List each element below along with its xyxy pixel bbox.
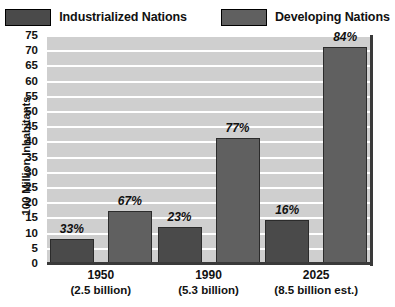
- right-axis-line: [370, 35, 373, 266]
- y-tick-label: 15: [25, 211, 38, 223]
- y-tick-label: 55: [25, 90, 38, 102]
- y-tick-label: 50: [25, 105, 38, 117]
- y-tick-label: 0: [32, 257, 38, 269]
- y-axis-tick-labels: 051015202530354045505560657075: [0, 35, 42, 263]
- bar-value-label: 33%: [60, 222, 84, 236]
- y-tick-label: 45: [25, 120, 38, 132]
- y-tick-label: 70: [25, 44, 38, 56]
- bar-1990-developing: [216, 138, 260, 263]
- x-tick-year: 2025: [274, 268, 358, 283]
- x-tick-year: 1990: [178, 268, 239, 283]
- y-tick-label: 30: [25, 166, 38, 178]
- bar-2025-industrialized: [265, 220, 309, 263]
- x-tick-group-1990: 1990(5.3 billion): [178, 268, 239, 298]
- bar-value-label: 23%: [167, 210, 191, 224]
- bar-value-label: 67%: [118, 194, 142, 208]
- bar-1990-industrialized: [158, 227, 202, 263]
- y-tick-label: 20: [25, 196, 38, 208]
- bar-series-container: 33%67%23%77%16%84%: [47, 35, 370, 263]
- legend-item-industrialized: Industrialized Nations: [5, 9, 187, 26]
- x-tick-population: (2.5 billion): [70, 283, 131, 298]
- y-tick-label: 60: [25, 75, 38, 87]
- bar-chart: Industrialized Nations Developing Nation…: [0, 0, 395, 307]
- y-tick-label: 65: [25, 59, 38, 71]
- x-axis-line: [47, 262, 370, 265]
- legend-label-developing: Developing Nations: [275, 10, 390, 24]
- legend-swatch-industrialized: [5, 9, 51, 26]
- y-tick-label: 40: [25, 135, 38, 147]
- x-tick-year: 1950: [70, 268, 131, 283]
- legend-label-industrialized: Industrialized Nations: [59, 10, 187, 24]
- y-tick-label: 10: [25, 227, 38, 239]
- plot-area: 33%67%23%77%16%84%: [47, 35, 370, 263]
- x-tick-population: (5.3 billion): [178, 283, 239, 298]
- bar-1950-industrialized: [50, 239, 94, 263]
- legend-swatch-developing: [221, 9, 267, 26]
- x-tick-group-2025: 2025(8.5 billion est.): [274, 268, 358, 298]
- y-tick-label: 25: [25, 181, 38, 193]
- chart-legend: Industrialized Nations Developing Nation…: [0, 6, 395, 28]
- y-tick-label: 5: [32, 242, 38, 254]
- x-axis-tick-labels: 1950(2.5 billion)1990(5.3 billion)2025(8…: [47, 268, 370, 306]
- bar-1950-developing: [108, 211, 152, 263]
- legend-item-developing: Developing Nations: [221, 9, 390, 26]
- x-tick-population: (8.5 billion est.): [274, 283, 358, 298]
- bar-value-label: 16%: [275, 203, 299, 217]
- bar-2025-developing: [323, 47, 367, 263]
- bar-value-label: 84%: [333, 30, 357, 44]
- x-tick-group-1950: 1950(2.5 billion): [70, 268, 131, 298]
- y-tick-label: 75: [25, 29, 38, 41]
- bar-value-label: 77%: [225, 121, 249, 135]
- y-tick-label: 35: [25, 151, 38, 163]
